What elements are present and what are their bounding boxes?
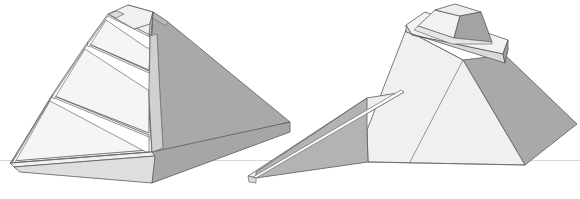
pyramid-reconstruction-figure: Stepped pyramid reconstruction — two vie… <box>0 0 580 199</box>
figure-svg-canvas <box>0 0 580 199</box>
right-view-pyramid-with-ramp <box>248 4 577 183</box>
summit-temple-right-face <box>454 12 492 42</box>
left-view-terraced-pyramid <box>10 5 290 183</box>
